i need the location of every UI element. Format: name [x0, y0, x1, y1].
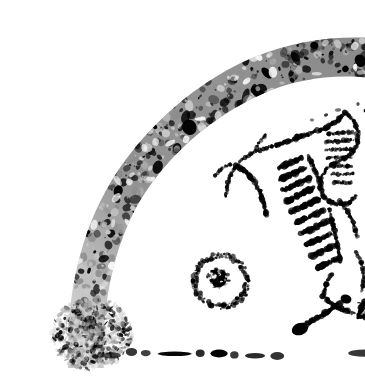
artifact-rubbing-canvas	[40, 16, 365, 382]
artifact-rubbing-figure: Monochrome rubbing of a fan-shaped sherd…	[40, 16, 365, 382]
